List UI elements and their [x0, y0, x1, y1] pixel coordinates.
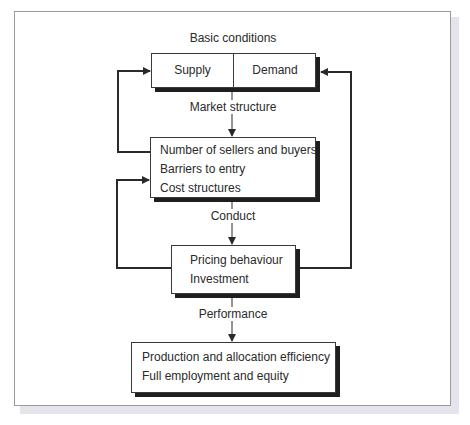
cell-demand: Demand	[234, 54, 316, 87]
item-investment: Investment	[190, 270, 283, 289]
cell-supply: Supply	[152, 54, 233, 87]
label-basic-conditions: Basic conditions	[188, 31, 279, 45]
item-cost-structures: Cost structures	[160, 179, 317, 198]
box-conduct: Pricing behaviour Investment	[171, 245, 296, 294]
item-pricing-behaviour: Pricing behaviour	[190, 251, 283, 270]
feedback-structure-to-basic	[118, 71, 150, 152]
item-number-of-sellers: Number of sellers and buyers	[160, 141, 317, 160]
label-market-structure: Market structure	[188, 100, 279, 114]
item-barriers-to-entry: Barriers to entry	[160, 160, 317, 179]
box-performance: Production and allocation efficiency Ful…	[131, 342, 336, 393]
box-market-structure: Number of sellers and buyers Barriers to…	[150, 137, 316, 198]
item-production-efficiency: Production and allocation efficiency	[142, 348, 330, 367]
box-basic-conditions: Supply Demand	[151, 53, 316, 88]
item-full-employment: Full employment and equity	[142, 367, 330, 386]
label-conduct: Conduct	[209, 209, 258, 223]
label-performance: Performance	[197, 307, 270, 321]
